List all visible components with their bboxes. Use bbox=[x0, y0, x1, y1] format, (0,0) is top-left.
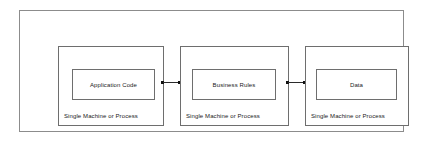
component-box-business-rules[interactable]: Business Rules bbox=[192, 69, 276, 100]
diagram-canvas: Application Code Single Machine or Proce… bbox=[0, 0, 421, 143]
component-box-data[interactable]: Data bbox=[316, 69, 397, 100]
tier-box-data[interactable]: Data Single Machine or Process bbox=[305, 46, 409, 126]
tier-caption-data: Single Machine or Process bbox=[311, 113, 385, 119]
tier-caption-application-code: Single Machine or Process bbox=[64, 113, 138, 119]
connector-line bbox=[288, 82, 304, 83]
component-box-application-code[interactable]: Application Code bbox=[72, 69, 155, 100]
connector-line bbox=[163, 82, 179, 83]
tier-box-application-code[interactable]: Application Code Single Machine or Proce… bbox=[58, 46, 164, 126]
tier-caption-business-rules: Single Machine or Process bbox=[186, 113, 260, 119]
connector-app-to-rules bbox=[161, 81, 181, 84]
component-label-data: Data bbox=[350, 82, 363, 88]
system-boundary: Application Code Single Machine or Proce… bbox=[19, 10, 404, 132]
component-label-business-rules: Business Rules bbox=[213, 82, 256, 88]
connector-rules-to-data bbox=[286, 81, 306, 84]
component-label-application-code: Application Code bbox=[90, 82, 137, 88]
tier-box-business-rules[interactable]: Business Rules Single Machine or Process bbox=[180, 46, 289, 126]
